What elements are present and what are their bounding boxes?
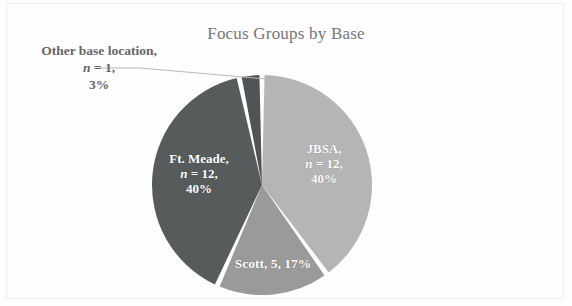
slice-label-jbsa-count: n = 12, bbox=[272, 156, 376, 171]
slice-label-other-name: Other base location, bbox=[10, 42, 188, 59]
slice-label-jbsa-name: JBSA, bbox=[272, 141, 376, 156]
n-value: = 12, bbox=[313, 156, 343, 171]
slice-label-jbsa-percent: 40% bbox=[272, 171, 376, 186]
slice-label-scott-text: Scott, 5, 17% bbox=[203, 256, 343, 271]
slice-label-scott: Scott, 5, 17% bbox=[203, 256, 343, 271]
slice-label-ft-meade-percent: 40% bbox=[140, 181, 258, 196]
n-symbol: n bbox=[305, 156, 312, 171]
pie-chart-figure: Focus Groups by Base JBSA, n = 12, 40% F… bbox=[0, 0, 572, 306]
slice-label-ft-meade: Ft. Meade, n = 12, 40% bbox=[140, 151, 258, 196]
slice-label-other-count: n = 1, bbox=[10, 59, 188, 76]
slice-label-other-base-location: Other base location, n = 1, 3% bbox=[10, 42, 188, 93]
slice-label-jbsa: JBSA, n = 12, 40% bbox=[272, 141, 376, 186]
n-symbol: n bbox=[180, 166, 187, 181]
n-value: = 1, bbox=[90, 60, 115, 75]
slice-label-other-percent: 3% bbox=[10, 76, 188, 93]
n-value: = 12, bbox=[188, 166, 218, 181]
slice-label-ft-meade-count: n = 12, bbox=[140, 166, 258, 181]
slice-label-ft-meade-name: Ft. Meade, bbox=[140, 151, 258, 166]
